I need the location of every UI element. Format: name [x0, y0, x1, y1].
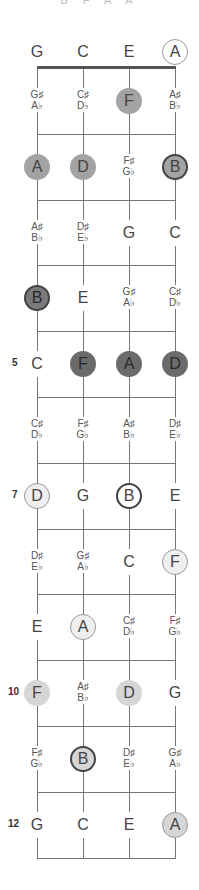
fret-line-11 — [37, 792, 176, 793]
note-label: C — [70, 39, 96, 65]
highlighted-note: A — [116, 351, 142, 377]
note-label: G♯A♭ — [70, 549, 96, 573]
sharp-name: C♯ — [24, 418, 50, 429]
note-label: C♯D♭ — [70, 88, 96, 112]
note-label: C♯D♭ — [162, 285, 188, 309]
sharp-name: F♯ — [116, 155, 142, 166]
note-label: F♯G♭ — [116, 154, 142, 178]
highlighted-note: F — [162, 549, 188, 575]
sharp-name: D♯ — [116, 747, 142, 758]
note-label: C♯D♭ — [24, 417, 50, 441]
fret-line-7 — [37, 529, 176, 530]
flat-name: G♭ — [24, 758, 50, 769]
fret-line-5 — [37, 397, 176, 398]
highlighted-note: A — [24, 154, 50, 180]
flat-name: E♭ — [24, 561, 50, 572]
flat-name: A♭ — [162, 758, 188, 769]
flat-name: G♭ — [116, 166, 142, 177]
note-label: C♯D♭ — [116, 614, 142, 638]
note-label: G♯A♭ — [116, 285, 142, 309]
highlighted-note: A — [162, 39, 188, 65]
fretboard-diagram: GCEAG♯A♭C♯D♭FA♯B♭ADF♯G♭BA♯B♭D♯E♭GCBEG♯A♭… — [0, 0, 199, 890]
flat-name: D♭ — [70, 100, 96, 111]
flat-name: E♭ — [162, 429, 188, 440]
flat-name: B♭ — [70, 692, 96, 703]
note-label: A♯B♭ — [162, 88, 188, 112]
note-label: G♯A♭ — [162, 746, 188, 770]
sharp-name: G♯ — [162, 747, 188, 758]
flat-name: D♭ — [116, 626, 142, 637]
fret-line-9 — [37, 660, 176, 661]
sharp-name: F♯ — [70, 418, 96, 429]
note-label: G♯A♭ — [24, 88, 50, 112]
sharp-name: A♯ — [162, 89, 188, 100]
note-label: A♯B♭ — [116, 417, 142, 441]
flat-name: B♭ — [116, 429, 142, 440]
sharp-name: A♯ — [116, 418, 142, 429]
flat-name: B♭ — [24, 232, 50, 243]
sharp-name: D♯ — [24, 550, 50, 561]
highlighted-note: D — [162, 351, 188, 377]
fret-number: 7 — [12, 489, 18, 500]
highlighted-note: F — [70, 351, 96, 377]
fret-line-2 — [37, 200, 176, 201]
flat-name: A♭ — [116, 297, 142, 308]
note-label: E — [24, 614, 50, 640]
note-label: D♯E♭ — [162, 417, 188, 441]
highlighted-note: D — [24, 483, 50, 509]
note-label: D♯E♭ — [24, 549, 50, 573]
note-label: F♯G♭ — [70, 417, 96, 441]
sharp-name: G♯ — [116, 286, 142, 297]
highlighted-note: B — [162, 154, 188, 180]
note-label: C — [162, 220, 188, 246]
highlighted-note: F — [116, 88, 142, 114]
note-label: A♯B♭ — [24, 220, 50, 244]
flat-name: B♭ — [162, 100, 188, 111]
note-label: G — [70, 483, 96, 509]
nut — [37, 66, 176, 69]
highlighted-note: F — [24, 680, 50, 706]
fret-line-3 — [37, 265, 176, 266]
sharp-name: D♯ — [162, 418, 188, 429]
sharp-name: G♯ — [70, 550, 96, 561]
sharp-name: D♯ — [70, 221, 96, 232]
note-label: E — [162, 483, 188, 509]
note-label: F♯G♭ — [162, 614, 188, 638]
sharp-name: F♯ — [162, 615, 188, 626]
fret-line-10 — [37, 726, 176, 727]
highlighted-note: D — [116, 680, 142, 706]
flat-name: E♭ — [70, 232, 96, 243]
note-label: A♯B♭ — [70, 680, 96, 704]
note-label: C — [24, 351, 50, 377]
highlighted-note: B — [116, 483, 142, 509]
note-label: G — [24, 812, 50, 838]
note-label: D♯E♭ — [70, 220, 96, 244]
fret-line-1 — [37, 134, 176, 135]
fret-number: 10 — [8, 686, 19, 697]
highlighted-note: D — [70, 154, 96, 180]
fret-line-4 — [37, 331, 176, 332]
sharp-name: C♯ — [116, 615, 142, 626]
fret-line-8 — [37, 594, 176, 595]
highlighted-note: A — [162, 812, 188, 838]
highlighted-note: B — [24, 285, 50, 311]
highlighted-note: A — [70, 614, 96, 640]
fret-line-12 — [37, 858, 176, 859]
flat-name: A♭ — [70, 561, 96, 572]
flat-name: G♭ — [162, 626, 188, 637]
flat-name: A♭ — [24, 100, 50, 111]
sharp-name: G♯ — [24, 89, 50, 100]
sharp-name: F♯ — [24, 747, 50, 758]
sharp-name: A♯ — [24, 221, 50, 232]
flat-name: E♭ — [116, 758, 142, 769]
note-label: E — [116, 39, 142, 65]
sharp-name: C♯ — [70, 89, 96, 100]
sharp-name: C♯ — [162, 286, 188, 297]
flat-name: D♭ — [24, 429, 50, 440]
flat-name: G♭ — [70, 429, 96, 440]
fret-number: 5 — [12, 357, 18, 368]
sharp-name: A♯ — [70, 681, 96, 692]
fret-number: 12 — [8, 818, 19, 829]
note-label: G — [162, 680, 188, 706]
note-label: D♯E♭ — [116, 746, 142, 770]
